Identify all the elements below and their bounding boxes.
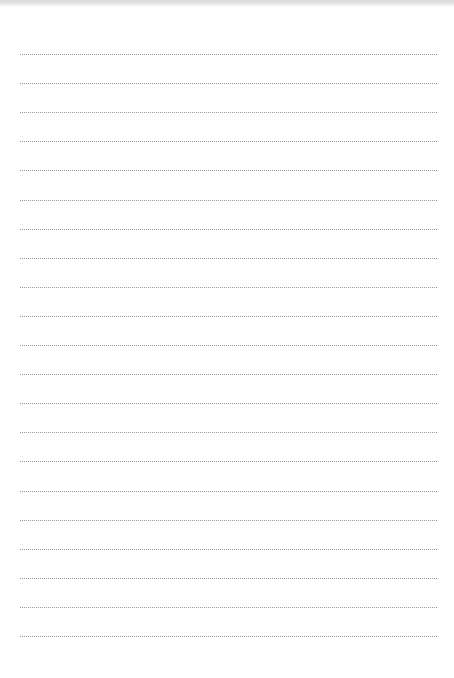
ruled-line: [20, 520, 437, 521]
ruled-line: [20, 258, 437, 259]
ruled-line: [20, 54, 437, 55]
ruled-line: [20, 374, 437, 375]
ruled-line: [20, 316, 437, 317]
ruled-line: [20, 461, 437, 462]
ruled-line: [20, 432, 437, 433]
ruled-line: [20, 345, 437, 346]
ruled-line: [20, 491, 437, 492]
ruled-line: [20, 170, 437, 171]
ruled-line: [20, 229, 437, 230]
ruled-line: [20, 549, 437, 550]
ruled-line: [20, 636, 437, 637]
ruled-line: [20, 200, 437, 201]
ruled-line: [20, 83, 437, 84]
ruled-line: [20, 578, 437, 579]
ruled-line: [20, 607, 437, 608]
ruled-line: [20, 403, 437, 404]
ruled-lines: [0, 0, 454, 678]
ruled-line: [20, 112, 437, 113]
ruled-line: [20, 141, 437, 142]
ruled-line: [20, 287, 437, 288]
